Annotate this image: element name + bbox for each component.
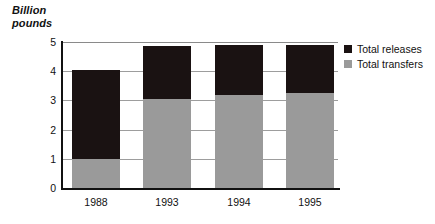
bar-segment-releases xyxy=(215,45,263,95)
legend-item: Total releases xyxy=(344,42,434,56)
y-axis-tick-label: 2 xyxy=(50,124,56,135)
legend-item: Total transfers xyxy=(344,57,434,71)
bar-group: 1995 xyxy=(286,42,334,188)
y-axis-tick-label: 1 xyxy=(50,154,56,165)
bar-segment-transfers xyxy=(72,159,120,188)
x-axis-line xyxy=(61,188,340,190)
bar-segment-transfers xyxy=(143,99,191,188)
y-axis-tick-label: 0 xyxy=(50,183,56,194)
bar-segment-releases xyxy=(72,70,120,159)
bar-segment-transfers xyxy=(215,95,263,188)
bar-segment-releases xyxy=(286,45,334,93)
x-axis-tick-label: 1988 xyxy=(84,197,107,208)
y-axis-tick-label: 3 xyxy=(50,95,56,106)
plot-area: 012345 1988199319941995 xyxy=(63,42,338,188)
legend-item-label: Total transfers xyxy=(357,59,423,70)
chart-legend: Total releasesTotal transfers xyxy=(344,42,434,72)
bar-group: 1993 xyxy=(143,42,191,188)
x-axis-tick-label: 1994 xyxy=(227,197,250,208)
bars-layer: 1988199319941995 xyxy=(63,42,338,188)
legend-item-label: Total releases xyxy=(357,44,422,55)
x-axis-tick-label: 1993 xyxy=(155,197,178,208)
stacked-bar-chart: Billion pounds 012345 1988199319941995 T… xyxy=(0,0,435,224)
bar-segment-transfers xyxy=(286,93,334,188)
bar-group: 1994 xyxy=(215,42,263,188)
bar-group: 1988 xyxy=(72,42,120,188)
x-axis-tick-label: 1995 xyxy=(298,197,321,208)
legend-swatch-gray xyxy=(344,60,352,68)
y-axis-tick-label: 4 xyxy=(50,66,56,77)
y-axis-caption: Billion pounds xyxy=(12,4,52,29)
legend-swatch-black xyxy=(344,45,352,53)
y-axis-tick-label: 5 xyxy=(50,37,56,48)
bar-segment-releases xyxy=(143,46,191,99)
